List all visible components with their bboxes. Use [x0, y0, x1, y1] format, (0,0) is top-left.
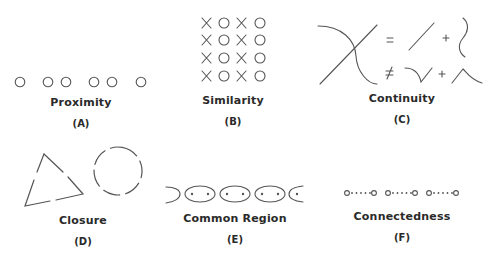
panel-b-tag: (B) — [225, 116, 242, 127]
dashed-circle-icon — [90, 143, 146, 199]
plus-icon — [443, 35, 449, 41]
plus-icon — [439, 71, 445, 77]
s-curve-icon — [459, 18, 467, 57]
ellipse-icon — [185, 186, 215, 202]
circle-icon — [454, 191, 459, 196]
circle-icon — [255, 18, 265, 28]
triangle-segment — [37, 154, 44, 172]
panel-b-label: Similarity — [202, 94, 264, 107]
panel-f-tag: (F) — [394, 232, 410, 243]
panel-c-label: Continuity — [369, 92, 435, 105]
panel-c-tag: (C) — [394, 114, 410, 125]
triangle-segment — [44, 154, 63, 172]
ellipse-icon — [220, 186, 250, 202]
common-region-dots — [191, 193, 298, 195]
common-region-figure — [166, 186, 303, 203]
circle-icon — [61, 77, 71, 87]
x-mark-icon — [202, 35, 211, 45]
circle-icon — [43, 77, 53, 87]
circle-icon — [89, 77, 99, 87]
arch-icon — [452, 69, 482, 83]
partial-ellipse-icon — [166, 187, 180, 203]
v-shape-icon — [405, 68, 432, 82]
panel-d-tag: (D) — [74, 236, 91, 247]
circle-icon — [219, 35, 229, 45]
straight-line-icon — [320, 25, 377, 84]
circle-icon — [427, 191, 432, 196]
circle-icon — [255, 35, 265, 45]
closure-figure — [25, 143, 146, 206]
circle-icon — [255, 71, 265, 81]
panel-a-label: Proximity — [50, 96, 111, 109]
not-equals-icon — [386, 67, 393, 79]
panel-e-label: Common Region — [183, 212, 286, 225]
connectedness-dotted-links — [351, 192, 453, 194]
similarity-figure — [202, 18, 265, 81]
panel-f-label: Connectedness — [354, 210, 451, 223]
x-mark-icon — [202, 53, 211, 63]
circle-icon — [255, 53, 265, 63]
equals-icon — [387, 38, 393, 42]
circle-icon — [136, 77, 146, 87]
circle-icon — [386, 191, 391, 196]
ellipse-icon — [255, 186, 285, 202]
triangle-segment — [56, 177, 83, 200]
circle-icon — [107, 77, 117, 87]
panel-e-tag: (E) — [227, 234, 243, 245]
panel-d-label: Closure — [59, 214, 107, 227]
x-mark-icon — [237, 53, 246, 63]
x-mark-icon — [202, 71, 211, 81]
x-mark-icon — [237, 71, 246, 81]
circle-icon — [413, 191, 418, 196]
circle-icon — [345, 191, 350, 196]
line-segment-icon — [409, 23, 434, 50]
circle-icon — [219, 53, 229, 63]
proximity-figure — [15, 77, 146, 87]
x-mark-icon — [202, 18, 211, 28]
circle-icon — [15, 77, 25, 87]
panel-a-tag: (A) — [73, 118, 90, 129]
circle-icon — [372, 191, 377, 196]
circle-icon — [219, 71, 229, 81]
triangle-segment — [25, 180, 50, 206]
x-mark-icon — [237, 35, 246, 45]
circle-icon — [219, 18, 229, 28]
x-mark-icon — [237, 18, 246, 28]
continuity-figure — [318, 18, 482, 84]
